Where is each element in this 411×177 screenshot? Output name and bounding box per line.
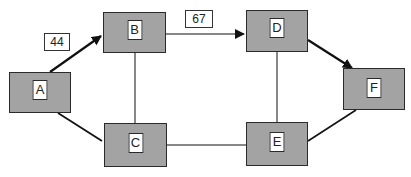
node-label-f: F (367, 78, 382, 98)
node-label-c: C (128, 133, 143, 153)
node-d[interactable]: D (246, 10, 308, 52)
node-e[interactable]: E (246, 122, 308, 166)
node-label-a: A (33, 80, 48, 100)
edge-label-a-b: 44 (44, 33, 70, 51)
node-a[interactable]: A (9, 72, 71, 113)
node-label-b: B (127, 20, 142, 40)
edge-label-b-d: 67 (185, 10, 213, 28)
node-label-e: E (270, 132, 285, 152)
node-f[interactable]: F (343, 68, 405, 110)
edge-e-f (308, 110, 356, 141)
node-label-d: D (270, 18, 285, 38)
edge-a-c (58, 113, 102, 141)
node-c[interactable]: C (104, 123, 167, 167)
node-b[interactable]: B (103, 12, 166, 53)
edge-d-f (308, 40, 352, 68)
